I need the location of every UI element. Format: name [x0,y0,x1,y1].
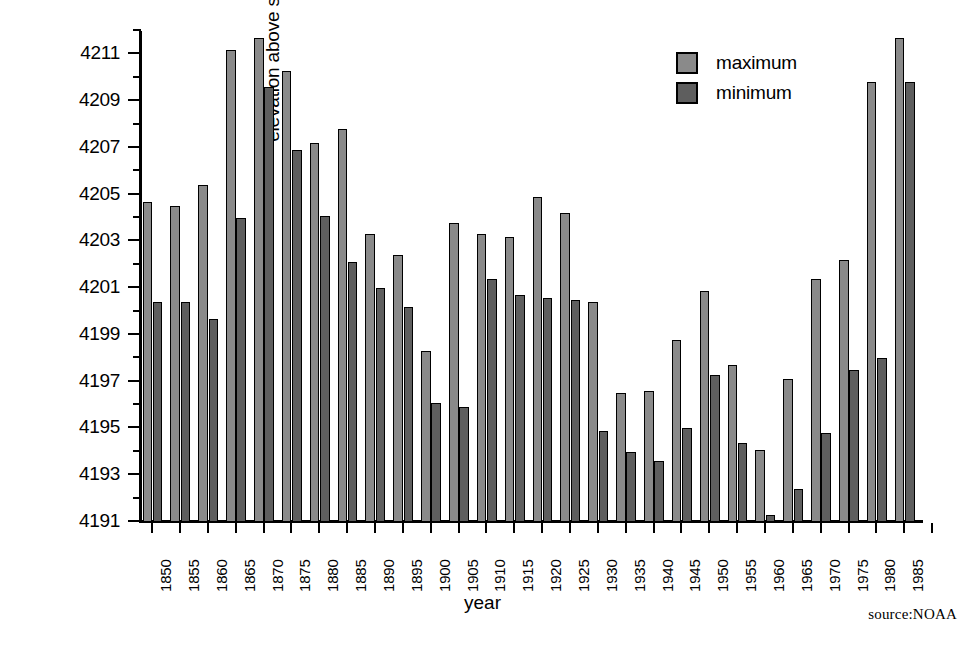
x-tick [263,523,265,533]
bar-minimum [626,452,636,522]
x-tick-label: 1970 [826,559,843,592]
bar-minimum [849,370,859,522]
x-tick [318,523,320,533]
bar-maximum [672,340,682,522]
bar-minimum [599,431,609,522]
legend-label: minimum [716,82,792,104]
bar-maximum [616,393,626,522]
x-tick-label: 1985 [909,559,926,592]
y-tick-label: 4205 [79,183,120,205]
legend-swatch-maximum [676,52,698,74]
x-tick [151,523,153,533]
bar-maximum [783,379,793,522]
x-tick-label: 1915 [519,559,536,592]
legend-label: maximum [716,52,797,74]
bar-group [170,31,198,522]
x-tick-label: 1880 [324,559,341,592]
bar-group [310,31,338,522]
bar-maximum [895,38,905,522]
bar-minimum [459,407,469,522]
x-tick-label: 1860 [213,559,230,592]
x-tick [430,523,432,533]
x-tick [290,523,292,533]
bar-maximum [310,143,320,522]
x-tick [820,523,822,533]
bar-group [867,31,895,522]
x-tick [458,523,460,533]
bar-minimum [571,300,581,522]
x-axis-tick-labels: 1850185518601865187018751880188518901895… [141,536,925,598]
y-tick-label: 4211 [80,42,120,64]
y-tick-label: 4193 [79,463,120,485]
bar-maximum [143,202,153,522]
x-tick-label: 1930 [603,559,620,592]
bar-group [505,31,533,522]
bar-maximum [449,223,459,522]
bar-minimum [292,150,302,522]
x-tick-label: 1850 [157,559,174,592]
bar-minimum [905,82,915,522]
bar-minimum [431,403,441,522]
x-tick-label: 1905 [464,559,481,592]
y-tick-label: 4203 [79,229,120,251]
x-tick [402,523,404,533]
x-tick-label: 1875 [296,559,313,592]
x-tick [653,523,655,533]
x-tick-label: 1885 [352,559,369,592]
bar-minimum [515,295,525,522]
bar-group [393,31,421,522]
x-tick [207,523,209,533]
bar-minimum [710,375,720,522]
x-tick-label: 1940 [659,559,676,592]
x-tick [513,523,515,533]
bar-group [254,31,282,522]
bar-minimum [264,87,274,522]
x-tick [736,523,738,533]
x-tick [541,523,543,533]
bar-maximum [560,213,570,522]
bar-minimum [654,461,664,522]
bar-maximum [170,206,180,522]
bar-group [449,31,477,522]
x-tick-label: 1975 [854,559,871,592]
bar-maximum [365,234,375,522]
bar-maximum [338,129,348,522]
bar-group [226,31,254,522]
x-tick-label: 1870 [269,559,286,592]
x-tick-label: 1855 [185,559,202,592]
x-tick-label: 1950 [714,559,731,592]
x-tick [179,523,181,533]
x-tick [569,523,571,533]
bar-minimum [404,307,414,522]
bar-group [616,31,644,522]
bar-minimum [348,262,358,522]
x-tick-label: 1980 [881,559,898,592]
x-tick [792,523,794,533]
bar-group [338,31,366,522]
chart-legend: maximumminimum [676,48,866,108]
legend-item-minimum: minimum [676,78,866,108]
bar-group [560,31,588,522]
x-tick-label: 1920 [547,559,564,592]
x-tick [903,523,905,533]
x-axis-ticks [141,523,925,534]
bar-maximum [728,365,738,522]
y-tick-label: 4207 [79,136,120,158]
x-tick-label: 1925 [575,559,592,592]
bar-minimum [153,302,163,522]
x-tick-label: 1945 [686,559,703,592]
bar-minimum [794,489,804,522]
y-axis-tick-labels: 4191419341954197419942014203420542074209… [0,0,124,645]
bar-maximum [755,450,765,522]
bar-minimum [766,515,776,522]
x-tick-label: 1960 [770,559,787,592]
y-tick-label: 4197 [79,370,120,392]
x-tick-label: 1955 [742,559,759,592]
bar-maximum [867,82,877,522]
bar-group [895,31,923,522]
bar-minimum [181,302,191,522]
x-tick [764,523,766,533]
bar-group [533,31,561,522]
bar-minimum [209,319,219,522]
bar-group [644,31,672,522]
